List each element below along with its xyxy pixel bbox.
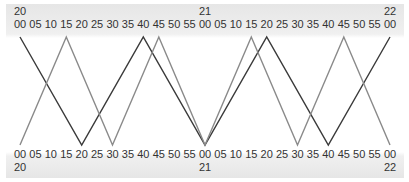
bottom-minute-label: 30 [291, 148, 303, 160]
bottom-minute-label: 15 [245, 148, 257, 160]
top-minute-label: 50 [353, 18, 365, 30]
top-minute-label: 30 [291, 18, 303, 30]
top-minute-label: 25 [91, 18, 103, 30]
bottom-minute-label: 50 [353, 148, 365, 160]
series-line-dark [20, 37, 390, 145]
bottom-hour-label: 21 [199, 161, 211, 173]
top-minute-label: 20 [261, 18, 273, 30]
top-minute-label: 05 [214, 18, 226, 30]
bottom-minute-label: 00 [14, 148, 26, 160]
bottom-minute-label: 55 [183, 148, 195, 160]
top-minute-label: 50 [168, 18, 180, 30]
top-minute-label: 45 [338, 18, 350, 30]
timeline-chart: 0005101520253035404550550005101520253035… [0, 0, 409, 182]
bottom-minute-label: 55 [368, 148, 380, 160]
bottom-hour-label: 22 [384, 161, 396, 173]
top-minute-label: 55 [183, 18, 195, 30]
top-minute-label: 00 [199, 18, 211, 30]
top-minute-label: 00 [384, 18, 396, 30]
top-hour-label: 20 [14, 5, 26, 17]
bottom-minute-label: 10 [230, 148, 242, 160]
bottom-minute-label: 25 [91, 148, 103, 160]
top-minute-label: 45 [153, 18, 165, 30]
bottom-minute-label: 50 [168, 148, 180, 160]
bottom-minute-label: 45 [153, 148, 165, 160]
bottom-minute-label: 05 [214, 148, 226, 160]
bottom-minute-label: 25 [276, 148, 288, 160]
bottom-minute-label: 40 [322, 148, 334, 160]
top-minute-label: 10 [230, 18, 242, 30]
top-minute-label: 40 [322, 18, 334, 30]
top-minute-label: 55 [368, 18, 380, 30]
top-hour-label: 22 [384, 5, 396, 17]
top-minute-label: 15 [245, 18, 257, 30]
top-minute-label: 10 [45, 18, 57, 30]
top-minute-label: 30 [106, 18, 118, 30]
bottom-minute-label: 00 [199, 148, 211, 160]
bottom-minute-label: 20 [76, 148, 88, 160]
bottom-minute-label: 45 [338, 148, 350, 160]
top-minute-label: 15 [60, 18, 72, 30]
bottom-minute-label: 05 [29, 148, 41, 160]
bottom-minute-label: 35 [122, 148, 134, 160]
bottom-hour-label: 20 [14, 161, 26, 173]
bottom-minute-label: 40 [137, 148, 149, 160]
bottom-minute-label: 35 [307, 148, 319, 160]
top-minute-label: 35 [307, 18, 319, 30]
bottom-minute-label: 10 [45, 148, 57, 160]
bottom-minute-label: 30 [106, 148, 118, 160]
top-minute-label: 00 [14, 18, 26, 30]
top-minute-label: 35 [122, 18, 134, 30]
bottom-minute-label: 20 [261, 148, 273, 160]
top-minute-label: 05 [29, 18, 41, 30]
top-minute-label: 25 [276, 18, 288, 30]
series-line-gray [20, 37, 390, 145]
bottom-minute-label: 00 [384, 148, 396, 160]
top-minute-label: 40 [137, 18, 149, 30]
bottom-minute-label: 15 [60, 148, 72, 160]
top-minute-label: 20 [76, 18, 88, 30]
top-hour-label: 21 [199, 5, 211, 17]
